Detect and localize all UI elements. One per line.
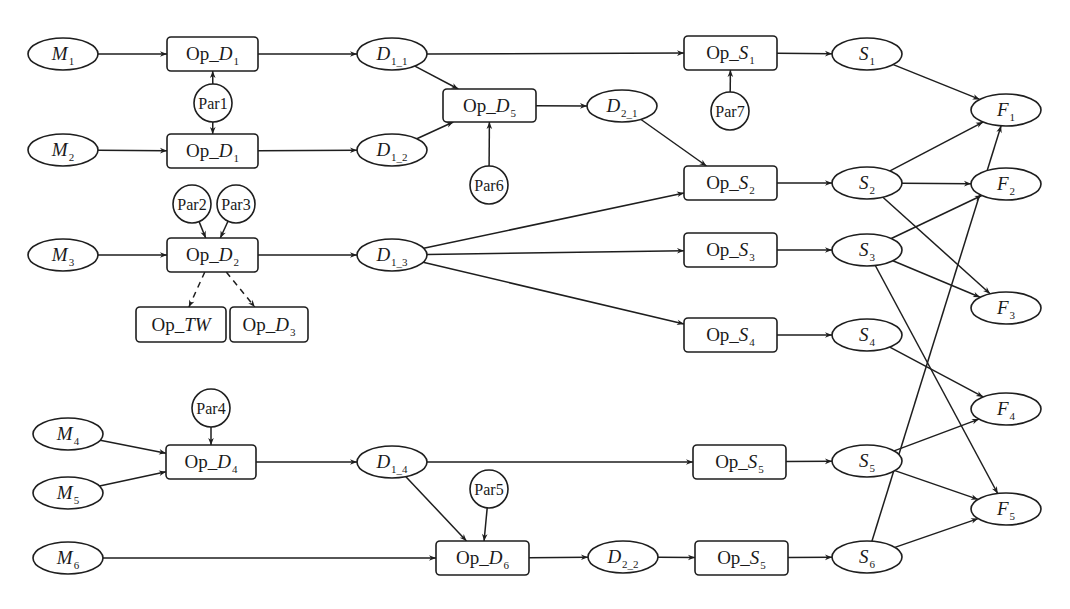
node-label: Op_S5 [715,451,764,475]
node-d2-2: D2_2 [588,541,658,573]
node-label: Par7 [715,103,744,120]
node-s6: S6 [832,541,902,573]
node-m6: M6 [33,542,103,574]
edge-d1_3-to-ops4 [423,262,684,324]
node-f4: F4 [971,393,1041,425]
edge-d1_1-to-ops1 [427,53,684,54]
edges-layer [98,53,1001,558]
node-par7: Par7 [711,92,749,130]
node-ops2: Op_S2 [684,166,777,200]
node-ops5b: Op_S5 [695,541,788,575]
node-par6: Par6 [470,166,508,204]
node-label: Op_S5 [717,547,766,571]
node-par3: Par3 [217,185,255,223]
node-label: Op_D1 [186,140,239,164]
node-m1: M1 [28,38,98,70]
node-label: Par2 [177,196,206,213]
process-flow-diagram: M1M2M3M4M5M6Op_D1Op_D1Op_D2Op_TWOp_D3Op_… [0,0,1070,609]
node-label: Op_S4 [706,324,755,348]
node-s4: S4 [832,319,902,351]
node-label: Op_D4 [185,451,238,475]
node-par4: Par4 [192,389,230,427]
node-ops5a: Op_S5 [693,445,786,479]
node-s5: S5 [832,445,902,477]
node-s3: S3 [832,234,902,266]
edge-opd1b-to-d1_2 [258,150,357,151]
edge-s3-to-f3 [893,261,980,297]
edge-opd2-to-optw [189,272,205,307]
node-opd1a: Op_D1 [167,37,258,71]
edge-m2-to-opd1b [98,150,167,151]
node-d1-2: D1_2 [357,134,427,166]
edge-d1_4-to-opd6 [406,477,467,541]
nodes-layer: M1M2M3M4M5M6Op_D1Op_D1Op_D2Op_TWOp_D3Op_… [28,36,1041,575]
node-label: Par4 [196,400,225,417]
node-par1: Par1 [194,84,232,122]
edge-opd2-to-opd3 [226,272,255,307]
node-d2-1: D2_1 [587,90,657,122]
node-f3: F3 [971,292,1041,324]
edge-m4-to-opd4 [100,440,166,453]
edge-m5-to-opd4 [100,472,166,486]
node-label: Op_S2 [706,172,755,196]
node-m5: M5 [33,477,103,509]
node-label: Op_D3 [243,314,296,338]
node-label: Op_S3 [706,239,755,263]
edge-par3-to-opd2 [220,221,228,238]
edge-d1_3-to-ops3 [427,251,684,255]
node-label: Par6 [474,177,503,194]
node-optw: Op_TW [136,307,226,342]
edge-d1_2-to-opd5 [417,122,454,139]
node-label: Par1 [198,95,227,112]
node-d1-3: D1_3 [357,239,427,271]
node-label: Op_D5 [463,95,516,119]
node-f1: F1 [971,94,1041,126]
node-label: Op_S1 [706,42,755,66]
node-s2: S2 [832,167,902,199]
node-opd6: Op_D6 [436,541,529,575]
edge-s2-to-f1 [890,122,983,171]
node-label: Op_TW [151,314,212,335]
node-opd2: Op_D2 [167,238,258,272]
node-label: Par5 [474,481,503,498]
node-d1-4: D1_4 [357,446,427,478]
node-label: Op_D6 [456,547,509,571]
node-m2: M2 [28,134,98,166]
node-label: Op_D2 [186,244,239,268]
node-par5: Par5 [470,470,508,508]
node-opd4: Op_D4 [166,445,256,479]
node-m3: M3 [28,239,98,271]
node-ops3: Op_S3 [684,233,777,267]
node-s1: S1 [832,38,902,70]
node-opd3: Op_D3 [230,307,308,342]
node-d1-1: D1_1 [357,38,427,70]
node-f5: F5 [971,493,1041,525]
node-par2: Par2 [173,185,211,223]
edge-s4-to-f4 [890,347,983,397]
node-opd5: Op_D5 [443,89,536,122]
edge-s5-to-f5 [895,471,978,500]
edge-d1_1-to-opd5 [415,66,458,89]
edge-s6-to-f5 [895,519,978,548]
node-ops1: Op_S1 [684,36,777,70]
node-label: Op_D1 [186,43,239,67]
node-f2: F2 [971,168,1041,200]
edge-opd6-to-d2_2 [529,557,588,558]
edge-d2_1-to-ops2 [641,120,707,167]
edge-par2-to-opd2 [199,222,206,238]
node-m4: M4 [33,418,103,450]
edge-d1_3-to-ops2 [424,193,684,248]
node-opd1b: Op_D1 [167,134,258,168]
edge-s1-to-f1 [893,65,979,100]
node-label: Par3 [221,196,250,213]
edge-par5-to-opd6 [484,508,487,541]
node-ops4: Op_S4 [684,318,777,352]
